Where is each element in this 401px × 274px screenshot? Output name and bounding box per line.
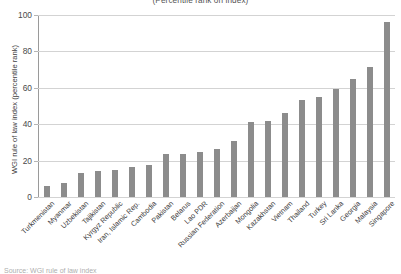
gridline [38, 197, 395, 198]
bar-slot[interactable] [123, 15, 140, 197]
bar[interactable] [248, 122, 254, 197]
bar[interactable] [316, 97, 322, 197]
bar-slot[interactable] [191, 15, 208, 197]
bar-slot[interactable] [344, 15, 361, 197]
bar[interactable] [197, 152, 203, 198]
bar-slot[interactable] [89, 15, 106, 197]
figure-caption: Source: WGI rule of law index [4, 267, 397, 274]
bar-slot[interactable] [242, 15, 259, 197]
bar[interactable] [333, 89, 339, 197]
y-tick-label: 60 [23, 83, 32, 93]
bar-slot[interactable] [106, 15, 123, 197]
bar[interactable] [265, 121, 271, 197]
y-tick-label: 40 [23, 119, 32, 129]
bar[interactable] [163, 154, 169, 197]
bar-slot[interactable] [55, 15, 72, 197]
plot-area [38, 15, 395, 197]
x-axis-labels: TurkmenistanMyanmarUzbekistanTajikistanK… [38, 199, 395, 259]
bar[interactable] [384, 22, 390, 197]
y-tick-label: 80 [23, 46, 32, 56]
bar[interactable] [299, 100, 305, 197]
bar-slot[interactable] [140, 15, 157, 197]
bar-slot[interactable] [310, 15, 327, 197]
bar[interactable] [61, 183, 67, 197]
bar[interactable] [180, 154, 186, 197]
bar[interactable] [282, 113, 288, 197]
bar[interactable] [214, 149, 220, 197]
y-tick-label: 20 [23, 156, 32, 166]
bar[interactable] [129, 167, 135, 197]
bar-slot[interactable] [293, 15, 310, 197]
bar-slot[interactable] [276, 15, 293, 197]
bar-slot[interactable] [259, 15, 276, 197]
bar-slot[interactable] [361, 15, 378, 197]
bar-slot[interactable] [38, 15, 55, 197]
bar-slot[interactable] [378, 15, 395, 197]
bar[interactable] [44, 186, 50, 197]
bar-slot[interactable] [157, 15, 174, 197]
bar[interactable] [95, 171, 101, 197]
bar-series [38, 15, 395, 197]
bar-slot[interactable] [208, 15, 225, 197]
bar-slot[interactable] [327, 15, 344, 197]
bar[interactable] [367, 67, 373, 197]
bar[interactable] [112, 170, 118, 197]
bar[interactable] [146, 165, 152, 197]
bar-slot[interactable] [225, 15, 242, 197]
chart-title: (Percentile rank on index) [0, 0, 401, 5]
bar-slot[interactable] [174, 15, 191, 197]
bar[interactable] [231, 141, 237, 197]
bar-slot[interactable] [72, 15, 89, 197]
y-tick-label: 100 [18, 10, 32, 20]
y-tick-label: 0 [27, 192, 32, 202]
y-axis-ticks: 020406080100 [0, 15, 34, 197]
bar[interactable] [78, 173, 84, 197]
bar[interactable] [350, 79, 356, 197]
